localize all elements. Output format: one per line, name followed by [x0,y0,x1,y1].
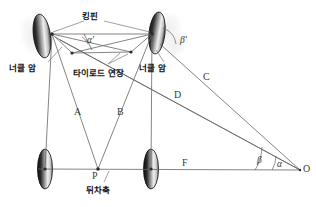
knuckle-right-leader [156,50,164,62]
knuckle-arm-right-label: 너클 암 [139,64,166,73]
beta-prime-label: β' [180,36,187,46]
segment-a-label: A [74,107,81,117]
segment-b-line [98,34,152,169]
kingpin-label: 킹핀 [82,12,98,21]
alpha-prime-label: α' [87,36,94,46]
segment-f-label: F [182,158,188,168]
rear-axle-line [38,169,300,170]
segment-b-label: B [117,107,124,117]
construction-ray [60,40,300,170]
alpha-arc [272,156,276,170]
kingpin-right-node [150,32,154,36]
figure-canvas: 킹핀 너클 암 너클 암 타이로드 연장 뒤차축 A B C D F P O α… [0,0,316,207]
point-o-label: O [303,164,310,174]
kingpin-left-node [50,32,54,36]
knuckle-right-node [129,50,132,53]
kingpin-leader-left [53,21,84,32]
rear-axle-leader [104,171,109,182]
beta-label: β [257,156,262,166]
tie-rod-extension-right [72,34,152,53]
rear-left-hub-node [43,167,46,170]
rear-axle-label: 뒤차축 [86,186,110,195]
segment-d-label: D [174,90,181,100]
tie-rod-link [72,52,131,53]
knuckle-arm-left-label: 너클 암 [9,64,36,73]
alpha-label: α [277,160,282,170]
segment-c-line [160,44,300,170]
tie-rod-label: 타이로드 연장 [73,69,124,78]
segment-c-label: C [203,72,210,82]
knuckle-left-node [70,51,73,54]
point-p-label: P [92,171,98,181]
tie-rod-leader-a [108,54,128,64]
kingpin-leader-right [104,21,150,32]
tie-rod-leader-b [108,53,120,64]
segment-a-line [52,34,98,169]
center-of-turn-node-o [299,169,301,171]
rear-right-hub-node [149,167,152,170]
steering-geometry-diagram [0,0,316,207]
